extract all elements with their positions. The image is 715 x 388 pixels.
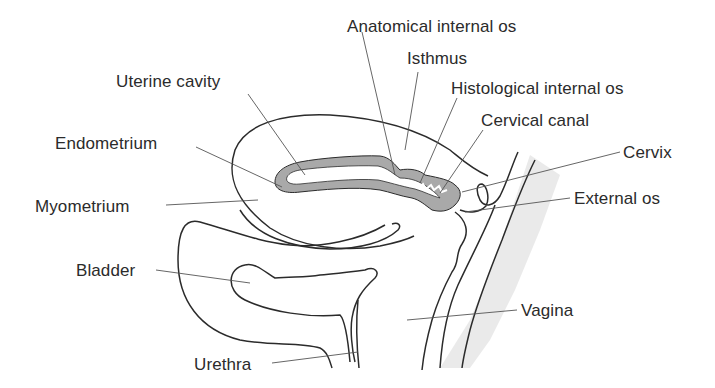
posterior-shadow — [440, 155, 560, 368]
bladder-inner-wall — [231, 265, 350, 362]
label-cervix: Cervix — [623, 144, 672, 161]
label-isthmus: Isthmus — [407, 50, 467, 67]
leader-histological-internal-os — [420, 98, 457, 183]
leader-isthmus — [405, 72, 418, 150]
label-uterine-cavity: Uterine cavity — [116, 73, 220, 90]
cervix-outline — [460, 152, 518, 212]
label-myometrium: Myometrium — [35, 198, 130, 215]
leader-endometrium — [196, 147, 282, 187]
leader-urethra — [272, 352, 358, 363]
bladder-outer — [178, 221, 385, 368]
label-anatomical-internal-os: Anatomical internal os — [347, 18, 516, 35]
label-external-os: External os — [574, 190, 660, 207]
leader-bladder — [156, 270, 250, 283]
label-urethra: Urethra — [194, 356, 251, 373]
label-vagina: Vagina — [521, 302, 573, 319]
anatomy-diagram: Anatomical internal os Isthmus Uterine c… — [0, 0, 715, 388]
leader-anatomical-internal-os — [362, 32, 395, 175]
label-cervical-canal: Cervical canal — [481, 112, 589, 129]
label-histological-internal-os: Histological internal os — [451, 80, 623, 97]
label-endometrium: Endometrium — [55, 135, 157, 152]
label-bladder: Bladder — [76, 262, 135, 279]
urethra-line — [357, 300, 359, 368]
leader-uterine-cavity — [248, 94, 305, 175]
leader-cervical-canal — [440, 130, 483, 193]
